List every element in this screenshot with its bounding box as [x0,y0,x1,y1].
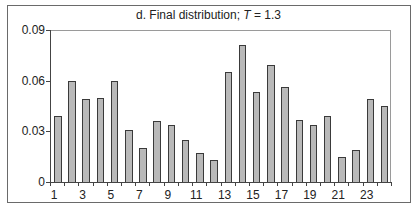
bar-7 [139,148,147,182]
y-tick [46,81,50,82]
bar-13 [225,72,233,182]
y-tick-label: 0.03 [22,124,45,138]
x-tick-label: 1 [51,188,58,202]
x-tick [377,182,378,186]
x-tick [320,182,321,186]
bar-22 [352,150,360,182]
x-tick [206,182,207,186]
bar-1 [54,116,62,182]
bar-2 [68,81,76,182]
y-tick-label: 0.06 [22,74,45,88]
y-tick-label: 0.09 [22,23,45,37]
bar-19 [310,125,318,182]
bar-5 [111,81,119,182]
x-tick-label: 9 [164,188,171,202]
x-tick [93,182,94,186]
x-tick [391,182,392,186]
x-tick-label: 5 [108,188,115,202]
x-tick [121,182,122,186]
bar-24 [381,106,389,182]
x-tick [277,182,278,186]
bar-8 [153,121,161,182]
x-tick [192,182,193,186]
x-tick-label: 17 [275,188,288,202]
x-tick [249,182,250,186]
x-tick [235,182,236,186]
y-tick [46,131,50,132]
bar-3 [82,99,90,182]
bar-18 [296,120,304,182]
bar-20 [324,116,332,182]
chart-title-suffix: = 1.3 [251,8,281,22]
y-tick [46,30,50,31]
x-tick-label: 23 [360,188,373,202]
bar-23 [367,99,375,182]
bar-16 [267,65,275,182]
bar-12 [210,160,218,182]
x-tick [263,182,264,186]
y-tick-label: 0 [38,175,45,189]
bar-4 [97,98,105,182]
x-tick [50,182,51,186]
x-tick [78,182,79,186]
x-tick [348,182,349,186]
chart-title-prefix: d. Final distribution; [136,8,243,22]
chart-title-variable: T [243,8,250,22]
x-tick [221,182,222,186]
x-tick [178,182,179,186]
x-tick [149,182,150,186]
x-tick-label: 13 [218,188,231,202]
x-tick-label: 3 [79,188,86,202]
x-tick-label: 15 [246,188,259,202]
bar-9 [168,125,176,182]
x-tick [64,182,65,186]
x-tick-label: 7 [136,188,143,202]
x-tick [292,182,293,186]
x-tick [306,182,307,186]
bar-21 [338,157,346,182]
bar-17 [281,87,289,182]
x-tick-label: 11 [190,188,202,202]
bar-14 [239,45,247,182]
chart-title: d. Final distribution; T = 1.3 [0,8,417,22]
x-tick-label: 21 [332,188,345,202]
bar-15 [253,92,261,182]
y-axis [50,30,51,183]
bar-10 [182,140,190,182]
bar-11 [196,153,204,182]
x-tick-label: 19 [303,188,316,202]
x-tick [334,182,335,186]
bar-6 [125,130,133,182]
x-tick [135,182,136,186]
x-tick [363,182,364,186]
x-tick [107,182,108,186]
x-tick [164,182,165,186]
